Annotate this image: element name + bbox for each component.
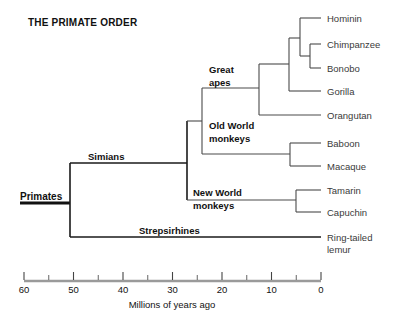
clade-label-primates: Primates xyxy=(20,191,63,202)
clade-label-great-apes-line2: apes xyxy=(209,77,231,88)
axis-tick-label-60: 60 xyxy=(19,284,30,295)
tip-label-capuchin: Capuchin xyxy=(327,207,367,218)
clade-label-old-world-monkeys-line1: Old World xyxy=(209,120,254,131)
axis-tick-label-40: 40 xyxy=(118,284,129,295)
tip-label-bonobo: Bonobo xyxy=(327,63,360,74)
axis-tick-label-10: 10 xyxy=(266,284,277,295)
clade-label-new-world-monkeys-line2: monkeys xyxy=(193,200,234,211)
tip-label-ringtailed-lemur-line2: lemur xyxy=(327,244,351,255)
axis-tick-label-30: 30 xyxy=(167,284,178,295)
axis-tick-label-0: 0 xyxy=(318,284,323,295)
axis-tick-label-20: 20 xyxy=(217,284,228,295)
clade-label-great-apes-line1: Great xyxy=(209,64,235,75)
tip-label-baboon: Baboon xyxy=(327,138,360,149)
axis-title: Millions of years ago xyxy=(129,299,216,310)
tip-label-gorilla: Gorilla xyxy=(327,86,355,97)
tip-label-tamarin: Tamarin xyxy=(327,185,361,196)
primate-phylogeny-figure: THE PRIMATE ORDER xyxy=(0,0,403,320)
clade-label-new-world-monkeys-line1: New World xyxy=(193,187,242,198)
tip-label-macaque: Macaque xyxy=(327,161,366,172)
tip-label-hominin: Hominin xyxy=(327,13,362,24)
page-title: THE PRIMATE ORDER xyxy=(28,17,138,28)
axis-tick-label-50: 50 xyxy=(68,284,79,295)
clade-label-old-world-monkeys-line2: monkeys xyxy=(209,133,250,144)
clade-label-simians: Simians xyxy=(88,151,124,162)
tip-label-ringtailed-lemur: Ring-tailed xyxy=(327,232,372,243)
clade-label-strepsirhines: Strepsirhines xyxy=(139,225,200,236)
tip-label-chimpanzee: Chimpanzee xyxy=(327,39,380,50)
tip-label-orangutan: Orangutan xyxy=(327,110,372,121)
